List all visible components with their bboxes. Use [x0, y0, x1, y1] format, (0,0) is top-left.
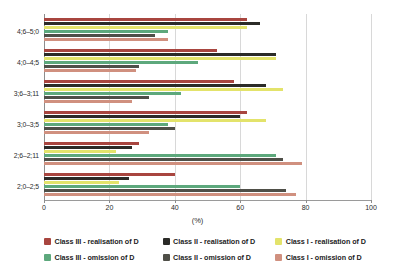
bar-group-1: [44, 45, 371, 76]
y-axis-tick-labels: 4;6–5;04;0–4;53;6–3;113;0–3;52;6–2;112;0…: [0, 14, 42, 200]
x-tick-mark-20: [109, 200, 110, 203]
y-tick-label-2: 3;6–3;11: [14, 89, 39, 96]
bar-group-4-series-3: [44, 154, 276, 157]
y-tick-label-0: 4;6–5;0: [17, 27, 39, 34]
x-tick-mark-80: [306, 200, 307, 203]
bar-group-1-series-0: [44, 49, 217, 52]
y-tick-label-3: 3;0–3;5: [17, 120, 39, 127]
legend-label: Class III - realisation of D: [55, 237, 139, 246]
legend-entry-1-1[interactable]: Class II - omission of D: [163, 249, 276, 265]
bar-group-1-series-4: [44, 65, 139, 68]
bar-group-4-series-0: [44, 142, 139, 145]
legend-swatch-icon: [44, 238, 51, 245]
legend-swatch-icon: [163, 238, 170, 245]
bar-group-3-series-3: [44, 123, 168, 126]
bar-group-5: [44, 169, 371, 200]
legend-entry-0-0[interactable]: Class III - realisation of D: [44, 233, 163, 249]
x-tick-label-20: 20: [105, 204, 113, 211]
bar-group-5-series-1: [44, 177, 129, 180]
legend-entry-1-0[interactable]: Class III - omission of D: [44, 249, 163, 265]
bar-group-3-series-0: [44, 111, 247, 114]
bar-group-0-series-0: [44, 18, 247, 21]
bar-group-2-series-1: [44, 84, 266, 87]
legend-entry-1-2[interactable]: Class I - omission of D: [275, 249, 384, 265]
bar-group-0-series-5: [44, 38, 168, 41]
y-tick-label-1: 4;0–4;5: [17, 58, 39, 65]
plot-area: [44, 14, 371, 200]
bar-group-4-series-2: [44, 150, 116, 153]
bar-group-1-series-3: [44, 61, 198, 64]
x-axis-title: (%): [0, 216, 395, 225]
y-tick-label-5: 2;0–2;5: [17, 182, 39, 189]
bar-group-4: [44, 138, 371, 169]
bar-group-5-series-4: [44, 189, 286, 192]
legend-label: Class I - omission of D: [286, 253, 362, 262]
legend-label: Class II - omission of D: [173, 253, 251, 262]
bar-group-0: [44, 14, 371, 45]
bar-group-3-series-2: [44, 119, 266, 122]
bar-group-4-series-1: [44, 146, 132, 149]
bar-group-1-series-5: [44, 69, 136, 72]
bar-group-0-series-3: [44, 30, 168, 33]
bar-group-3: [44, 107, 371, 138]
bar-group-5-series-5: [44, 193, 296, 196]
legend-entry-0-1[interactable]: Class II - realisation of D: [163, 233, 276, 249]
bar-group-0-series-1: [44, 22, 260, 25]
bar-group-2-series-2: [44, 88, 283, 91]
legend-entry-0-2[interactable]: Class I - realisation of D: [275, 233, 384, 249]
bar-group-2-series-5: [44, 100, 132, 103]
bar-group-4-series-4: [44, 158, 283, 161]
bar-group-1-series-1: [44, 53, 276, 56]
bar-group-3-series-4: [44, 127, 175, 130]
legend-row-0: Class III - realisation of DClass II - r…: [44, 233, 384, 249]
horizontal-bar-chart: 4;6–5;04;0–4;53;6–3;113;0–3;52;6–2;112;0…: [0, 0, 395, 276]
bar-group-2: [44, 76, 371, 107]
x-tick-label-40: 40: [171, 204, 179, 211]
x-tick-mark-0: [44, 200, 45, 203]
legend-label: Class II - realisation of D: [173, 237, 255, 246]
chart-legend: Class III - realisation of DClass II - r…: [0, 232, 395, 274]
bar-group-2-series-4: [44, 96, 149, 99]
legend-label: Class III - omission of D: [55, 253, 135, 262]
x-tick-label-0: 0: [42, 204, 46, 211]
bar-group-3-series-1: [44, 115, 240, 118]
bar-group-5-series-3: [44, 185, 240, 188]
gridline-100: [371, 14, 372, 200]
bar-group-1-series-2: [44, 57, 276, 60]
bar-group-2-series-0: [44, 80, 234, 83]
bar-group-5-series-0: [44, 173, 175, 176]
legend-swatch-icon: [163, 254, 170, 261]
legend-row-1: Class III - omission of DClass II - omis…: [44, 249, 384, 265]
x-axis-line: [44, 200, 372, 201]
plot-wrapper: 4;6–5;04;0–4;53;6–3;113;0–3;52;6–2;112;0…: [0, 0, 395, 205]
x-tick-mark-100: [371, 200, 372, 203]
legend-swatch-icon: [275, 254, 282, 261]
bar-group-0-series-4: [44, 34, 155, 37]
bar-group-4-series-5: [44, 162, 302, 165]
y-tick-label-4: 2;6–2;11: [14, 151, 39, 158]
bar-group-5-series-2: [44, 181, 119, 184]
x-tick-label-60: 60: [236, 204, 244, 211]
legend-swatch-icon: [275, 238, 282, 245]
bar-group-2-series-3: [44, 92, 181, 95]
bar-group-0-series-2: [44, 26, 247, 29]
x-tick-label-100: 100: [365, 204, 377, 211]
legend-swatch-icon: [44, 254, 51, 261]
x-tick-mark-40: [175, 200, 176, 203]
bar-group-3-series-5: [44, 131, 149, 134]
x-tick-mark-60: [240, 200, 241, 203]
legend-label: Class I - realisation of D: [286, 237, 366, 246]
x-tick-label-80: 80: [302, 204, 310, 211]
